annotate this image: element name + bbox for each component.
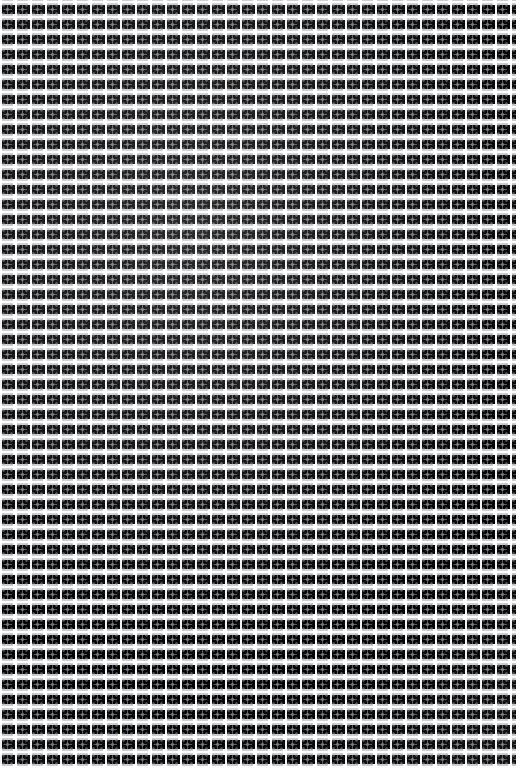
pattern-surface: [0, 0, 516, 768]
pattern-tile-layer: [0, 0, 516, 768]
vignette-layer: [0, 0, 516, 768]
